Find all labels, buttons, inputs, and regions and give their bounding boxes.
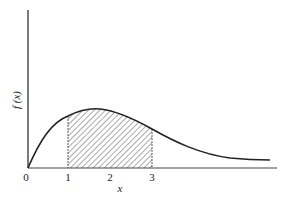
y-axis-label: f (x) [10, 91, 23, 109]
x-tick-0: 0 [23, 171, 29, 183]
x-tick-3: 3 [149, 171, 155, 183]
x-axis-label: x [117, 182, 123, 194]
x-tick-1: 1 [65, 171, 71, 183]
x-tick-2: 2 [107, 171, 113, 183]
density-diagram: 0 1 2 3 x f (x) [0, 0, 290, 200]
